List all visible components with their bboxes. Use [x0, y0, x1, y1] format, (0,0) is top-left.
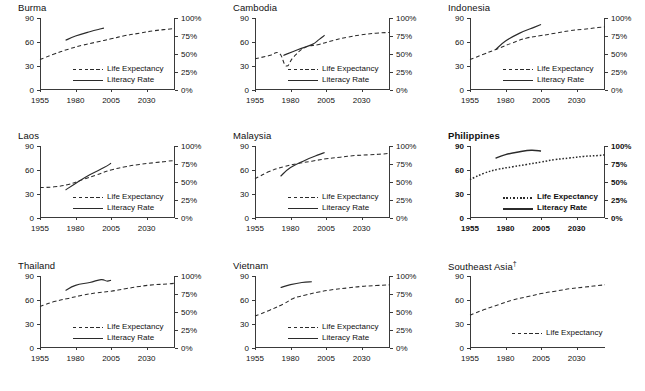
- y-tick-right: [175, 348, 178, 349]
- panel-indonesia: Indonesia03060900%25%50%75%100%195519802…: [430, 0, 645, 130]
- y-tick-right: [175, 72, 178, 73]
- y-tick-right: [605, 164, 608, 165]
- x-tick-label: 1955: [246, 224, 264, 233]
- y-tick-label-left: 90: [455, 14, 464, 23]
- panel-title: Thailand: [18, 260, 55, 271]
- y-tick-label-right: 25%: [181, 326, 197, 335]
- y-tick-label-right: 75%: [396, 290, 412, 299]
- x-tick-label: 1980: [282, 96, 300, 105]
- y-tick-label-right: 50%: [396, 308, 412, 317]
- y-tick-label-left: 0: [460, 86, 464, 95]
- x-tick-label: 1980: [497, 354, 515, 363]
- y-tick-right: [605, 18, 608, 19]
- panel-laos: Laos03060900%25%50%75%100%19551980200520…: [0, 128, 215, 258]
- legend-label-literacy-rate: Literacy Rate: [537, 203, 587, 212]
- panel-burma: Burma03060900%25%50%75%100%1955198020052…: [0, 0, 215, 130]
- y-tick-label-left: 90: [240, 14, 249, 23]
- y-tick-label-right: 100%: [611, 142, 631, 151]
- y-tick-label-right: 0%: [396, 86, 408, 95]
- x-tick-label: 2030: [568, 354, 586, 363]
- y-tick-right: [605, 146, 608, 147]
- y-tick-label-right: 75%: [611, 32, 627, 41]
- panel-cambodia: Cambodia03060900%25%50%75%100%1955198020…: [215, 0, 430, 130]
- y-tick-label-left: 30: [455, 62, 464, 71]
- x-tick-label: 1980: [282, 224, 300, 233]
- y-tick-right: [390, 312, 393, 313]
- y-tick-label-right: 50%: [396, 50, 412, 59]
- y-tick-right: [175, 294, 178, 295]
- x-tick-label: 1980: [67, 96, 85, 105]
- x-tick-label: 1955: [461, 96, 479, 105]
- y-tick-label-right: 50%: [181, 178, 197, 187]
- y-tick-label-left: 60: [240, 296, 249, 305]
- y-tick-label-right: 100%: [181, 142, 201, 151]
- y-tick-label-left: 60: [25, 38, 34, 47]
- legend-label-literacy-rate: Literacy Rate: [537, 75, 584, 84]
- y-tick-label-left: 30: [240, 62, 249, 71]
- y-tick-label-right: 100%: [611, 14, 631, 23]
- y-tick-right: [390, 218, 393, 219]
- y-tick-right: [390, 164, 393, 165]
- y-tick-label-left: 60: [455, 38, 464, 47]
- series-line-life-expectancy: [40, 283, 175, 306]
- legend-swatch-dashed: [73, 69, 103, 70]
- x-tick-label: 2005: [532, 96, 550, 105]
- legend-label-life-expectancy: Life Expectancy: [546, 328, 602, 337]
- y-tick-right: [175, 18, 178, 19]
- y-tick-label-right: 25%: [611, 196, 627, 205]
- panel-title: Southeast Asia†: [448, 260, 517, 272]
- y-tick-label-left: 90: [25, 14, 34, 23]
- y-tick-label-left: 90: [455, 272, 464, 281]
- y-tick-label-right: 50%: [611, 50, 627, 59]
- panel-philippines: Philippines03060900%25%50%75%100%1955198…: [430, 128, 645, 258]
- y-tick-label-right: 25%: [396, 326, 412, 335]
- x-tick-label: 2005: [102, 354, 120, 363]
- y-tick-right: [175, 164, 178, 165]
- x-tick-label: 2030: [138, 354, 156, 363]
- legend-label-literacy-rate: Literacy Rate: [107, 75, 154, 84]
- y-tick-label-left: 90: [455, 142, 464, 151]
- x-tick-label: 2030: [138, 96, 156, 105]
- y-tick-label-right: 0%: [396, 344, 408, 353]
- y-tick-label-right: 25%: [181, 196, 197, 205]
- y-tick-right: [390, 18, 393, 19]
- x-tick-label: 2005: [102, 224, 120, 233]
- legend-swatch-solid: [503, 80, 533, 81]
- legend-swatch-solid: [73, 208, 103, 209]
- series-line-life-expectancy: [40, 28, 175, 59]
- panel-title: Laos: [18, 130, 39, 141]
- y-tick-label-right: 75%: [611, 160, 627, 169]
- x-tick-label: 2005: [532, 354, 550, 363]
- series-line-life-expectancy: [470, 285, 605, 315]
- x-tick-label: 1955: [461, 354, 479, 363]
- y-tick-label-right: 0%: [181, 344, 193, 353]
- y-tick-label-left: 30: [25, 320, 34, 329]
- y-tick-label-left: 90: [240, 272, 249, 281]
- panel-southeast-asia: Southeast Asia†03060901955198020052030Li…: [430, 258, 645, 388]
- legend-label-literacy-rate: Literacy Rate: [322, 333, 369, 342]
- x-tick-label: 1980: [282, 354, 300, 363]
- x-tick-label: 1955: [31, 354, 49, 363]
- x-tick-label: 1955: [31, 224, 49, 233]
- y-tick-right: [175, 330, 178, 331]
- series-line-literacy-rate: [496, 150, 541, 158]
- x-tick-label: 2030: [138, 224, 156, 233]
- y-tick-right: [390, 294, 393, 295]
- y-tick-label-left: 0: [30, 214, 34, 223]
- y-tick-label-left: 30: [25, 62, 34, 71]
- y-tick-label-right: 50%: [181, 308, 197, 317]
- y-tick-label-left: 60: [25, 166, 34, 175]
- x-tick-label: 2005: [102, 96, 120, 105]
- legend-swatch-solid: [73, 80, 103, 81]
- series-line-literacy-rate: [66, 280, 111, 291]
- panel-title: Burma: [18, 2, 46, 13]
- y-tick-label-left: 30: [455, 320, 464, 329]
- y-tick-label-left: 60: [455, 296, 464, 305]
- y-tick-right: [175, 54, 178, 55]
- legend-swatch-solid: [73, 338, 103, 339]
- y-tick-label-right: 0%: [611, 86, 623, 95]
- y-tick-label-left: 30: [455, 190, 464, 199]
- y-tick-label-right: 25%: [181, 68, 197, 77]
- y-tick-label-left: 60: [240, 166, 249, 175]
- y-tick-right: [605, 54, 608, 55]
